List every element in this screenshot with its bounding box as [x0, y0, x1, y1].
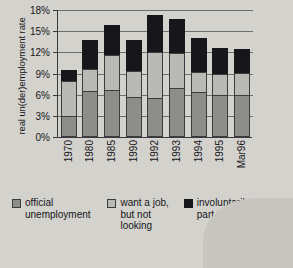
y-axis-tick-label: 9%	[16, 68, 50, 79]
bar-segment	[104, 55, 120, 90]
bar-segment	[126, 97, 142, 137]
y-axis-tick-label: 0%	[16, 132, 50, 143]
x-axis-tick-label: 1992	[149, 140, 160, 162]
x-axis-labels: 19701980198519901992199319941995Mar96	[57, 140, 252, 186]
bar-segment	[169, 53, 185, 88]
bar-group	[212, 48, 228, 137]
y-axis-tick-label: 3%	[16, 110, 50, 121]
legend-item: want a job, but not looking	[107, 197, 179, 232]
bar-segment	[212, 74, 228, 95]
x-axis-tick-label: Mar96	[236, 140, 247, 168]
y-axis-tick-label: 15%	[16, 26, 50, 37]
x-axis-tick-label: 1993	[171, 140, 182, 162]
chart-legend: official unemploymentwant a job, but not…	[12, 197, 260, 232]
bar-segment	[191, 92, 207, 137]
bar-group	[147, 15, 163, 137]
bar-group	[61, 70, 77, 137]
y-axis-tick-label: 18%	[16, 5, 50, 16]
x-axis-label-cell: 1970	[60, 140, 76, 186]
bar-group	[126, 40, 142, 137]
bar-segment	[147, 15, 163, 52]
legend-swatch-icon	[107, 199, 116, 208]
bar-segment	[126, 40, 142, 71]
bar-segment	[61, 70, 77, 81]
x-axis-label-cell: 1994	[190, 140, 206, 186]
bar-segment	[212, 95, 228, 137]
bar-segment	[82, 91, 98, 137]
bar-segment	[104, 90, 120, 137]
x-axis-label-cell: Mar96	[233, 140, 249, 186]
y-axis-tick-label: 12%	[16, 47, 50, 58]
bar-segment	[61, 116, 77, 137]
bar-segment	[234, 95, 250, 137]
bar-segment	[104, 25, 120, 55]
x-axis-label-cell: 1980	[81, 140, 97, 186]
legend-item: official unemployment	[12, 197, 103, 232]
x-axis-tick-label: 1994	[192, 140, 203, 162]
y-tick	[53, 137, 58, 138]
x-axis-tick-label: 1985	[106, 140, 117, 162]
x-axis-label-cell: 1993	[168, 140, 184, 186]
x-axis-tick-label: 1990	[127, 140, 138, 162]
bar-group	[169, 19, 185, 138]
bar-segment	[234, 73, 250, 96]
bar-segment	[147, 98, 163, 137]
legend-label: official unemployment	[25, 197, 103, 220]
bar-segment	[169, 19, 185, 54]
legend-label: involuntarily part-time	[197, 197, 260, 220]
bar-segment	[191, 72, 207, 92]
bar-segment	[169, 88, 185, 137]
bar-segment	[234, 49, 250, 73]
x-axis-tick-label: 1995	[214, 140, 225, 162]
x-axis-label-cell: 1990	[125, 140, 141, 186]
x-axis-label-cell: 1992	[146, 140, 162, 186]
legend-item: involuntarily part-time	[184, 197, 260, 232]
bar-segment	[82, 69, 98, 92]
plot-area: 0%3%6%9%12%15%18%	[57, 10, 252, 138]
bar-segment	[191, 38, 207, 72]
legend-label: want a job, but not looking	[120, 197, 179, 232]
x-axis-tick-label: 1980	[84, 140, 95, 162]
bar-group	[82, 40, 98, 137]
y-axis-tick-label: 6%	[16, 89, 50, 100]
x-axis-label-cell: 1995	[211, 140, 227, 186]
bar-group	[191, 38, 207, 137]
bar-segment	[126, 71, 142, 96]
legend-swatch-icon	[12, 199, 21, 208]
bar-segment	[147, 52, 163, 98]
bar-segment	[61, 81, 77, 116]
bar-series-group	[58, 10, 253, 137]
x-axis-label-cell: 1985	[103, 140, 119, 186]
bar-segment	[82, 40, 98, 68]
x-axis-tick-label: 1970	[62, 140, 73, 162]
bar-group	[104, 25, 120, 137]
bar-segment	[212, 48, 228, 74]
legend-swatch-icon	[184, 199, 193, 208]
bar-group	[234, 49, 250, 137]
